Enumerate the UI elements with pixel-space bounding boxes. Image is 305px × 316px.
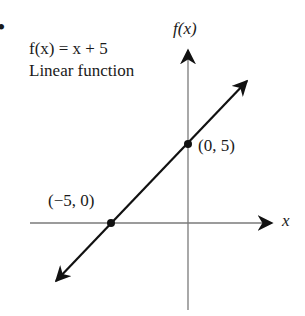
point-x-intercept [107,219,115,227]
figure-bullet: • [0,15,5,39]
point-y-intercept [184,140,192,148]
point-label-y-intercept: (0, 5) [198,137,235,154]
y-axis-label: f(x) [173,20,197,37]
function-line [56,81,247,281]
x-axis-label: x [282,212,290,229]
equation-label: f(x) = x + 5 [29,40,108,57]
point-label-x-intercept: (−5, 0) [48,192,94,209]
subtitle-label: Linear function [29,62,134,79]
